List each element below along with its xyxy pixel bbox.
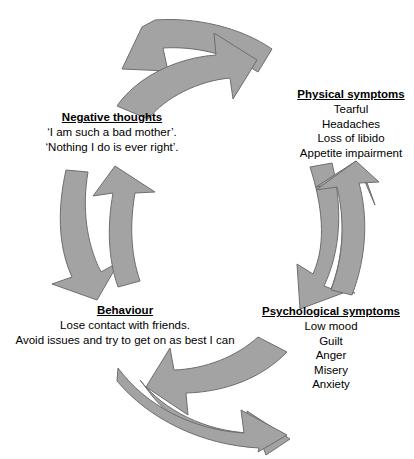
node-physical-symptoms-line-3: Loss of libido — [288, 131, 414, 146]
node-behaviour-line-2: Avoid issues and try to get on as best I… — [0, 333, 250, 348]
node-negative-thoughts: Negative thoughts ‘I am such a bad mothe… — [22, 110, 202, 154]
arrow-left-up-pointing — [93, 166, 155, 287]
node-physical-symptoms-line-4: Appetite impairment — [288, 146, 414, 161]
node-negative-thoughts-title: Negative thoughts — [22, 110, 202, 125]
node-psychological-symptoms: Psychological symptoms Low mood Guilt An… — [248, 304, 414, 392]
node-physical-symptoms-line-2: Headaches — [288, 117, 414, 132]
node-behaviour-title: Behaviour — [0, 303, 250, 318]
node-behaviour-line-1: Lose contact with friends. — [0, 318, 250, 333]
node-psychological-symptoms-line-1: Low mood — [248, 319, 414, 334]
node-psychological-symptoms-line-4: Misery — [248, 363, 414, 378]
node-psychological-symptoms-line-3: Anger — [248, 348, 414, 363]
node-physical-symptoms-title: Physical symptoms — [288, 87, 414, 102]
node-behaviour: Behaviour Lose contact with friends. Avo… — [0, 303, 250, 347]
node-negative-thoughts-line-2: ‘Nothing I do is ever right’. — [22, 140, 202, 155]
node-physical-symptoms: Physical symptoms Tearful Headaches Loss… — [288, 87, 414, 160]
node-psychological-symptoms-line-2: Guilt — [248, 334, 414, 349]
node-psychological-symptoms-title: Psychological symptoms — [248, 304, 414, 319]
node-psychological-symptoms-line-5: Anxiety — [248, 377, 414, 392]
node-physical-symptoms-line-1: Tearful — [288, 102, 414, 117]
node-negative-thoughts-line-1: ‘I am such a bad mother’. — [22, 125, 202, 140]
